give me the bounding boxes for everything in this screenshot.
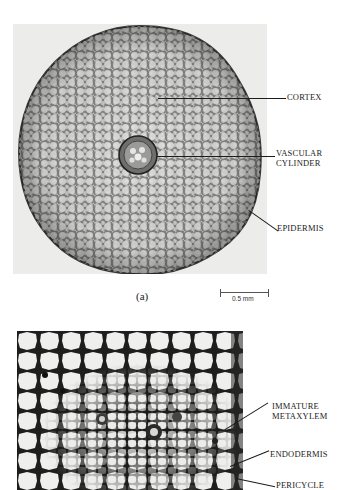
label-epidermis: EPIDERMIS	[277, 223, 324, 233]
label-vascular-cylinder-line2: CYLINDER	[276, 158, 321, 168]
cross-section-illustration	[13, 24, 267, 274]
label-vascular-cylinder-line1: VASCULAR	[276, 148, 322, 158]
vascular-cylinder-micrograph	[17, 331, 243, 490]
cortex-leader-line	[158, 98, 286, 99]
panel-a-caption: (a)	[136, 290, 148, 302]
vascular-cylinder-leader-line	[157, 156, 275, 157]
label-cortex: CORTEX	[287, 92, 322, 102]
scale-bar-label: 0.5 mm	[232, 295, 254, 302]
label-immature-metaxylem-line2: METAXYLEM	[272, 411, 327, 421]
label-endodermis: ENDODERMIS	[270, 449, 328, 459]
label-pericycle: PERICYCLE	[276, 480, 324, 490]
label-immature-metaxylem-line1: IMMATURE	[272, 401, 319, 411]
micrograph-illustration	[17, 331, 243, 490]
root-cross-section-photo	[13, 24, 267, 274]
